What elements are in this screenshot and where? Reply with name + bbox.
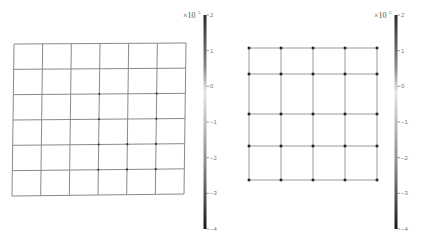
mesh-node-marker xyxy=(248,179,251,182)
mesh-node xyxy=(155,118,157,120)
colorbar-tick-label: 1 xyxy=(401,48,405,54)
mesh-node-marker xyxy=(280,73,283,76)
right-mesh-grid xyxy=(248,47,379,182)
colorbar-tick-label: −2 xyxy=(210,155,218,161)
mesh-node-marker xyxy=(248,47,251,50)
colorbar-tick-label: 0 xyxy=(401,83,405,89)
mesh-node xyxy=(98,118,100,120)
colorbar-multiplier-exponent: 5 xyxy=(198,10,201,15)
mesh-node-marker xyxy=(312,73,315,76)
mesh-node-marker xyxy=(376,145,379,148)
mesh-node xyxy=(155,168,157,170)
mesh-node xyxy=(126,168,128,170)
left-colorbar: 210−1−2−3−4×105 xyxy=(183,10,218,232)
mesh-node-marker xyxy=(376,179,379,182)
mesh-node-marker xyxy=(248,73,251,76)
figure-canvas: 210−1−2−3−4×105 210−1−2−3−4×105 xyxy=(0,0,422,243)
colorbar-tick-label: −4 xyxy=(401,226,409,232)
mesh-node xyxy=(97,169,99,171)
colorbar-multiplier-exponent: 5 xyxy=(389,10,392,15)
colorbar-tick-label: 2 xyxy=(210,12,214,18)
mesh-node-marker xyxy=(376,73,379,76)
colorbar-gradient xyxy=(395,15,398,229)
mesh-line-horizontal xyxy=(14,68,186,69)
mesh-node-marker xyxy=(344,179,347,182)
left-mesh-grid xyxy=(12,43,186,196)
mesh-node-marker xyxy=(376,47,379,50)
colorbar-tick-label: −4 xyxy=(210,226,218,232)
mesh-node xyxy=(156,92,158,94)
mesh-node-marker xyxy=(280,47,283,50)
mesh-node-marker xyxy=(280,179,283,182)
colorbar-tick-label: −1 xyxy=(210,119,218,125)
mesh-node-marker xyxy=(344,73,347,76)
colorbar-tick-label: −3 xyxy=(401,190,409,196)
mesh-node xyxy=(98,93,100,95)
mesh-node-marker xyxy=(312,179,315,182)
mesh-node-marker xyxy=(344,113,347,116)
colorbar-tick-label: 1 xyxy=(210,48,214,54)
mesh-node-marker xyxy=(344,47,347,50)
mesh-line-horizontal xyxy=(14,43,186,44)
colorbar-multiplier: ×10 xyxy=(183,11,196,20)
colorbar-tick-label: −2 xyxy=(401,155,409,161)
mesh-node-marker xyxy=(280,113,283,116)
colorbar-gradient xyxy=(204,15,207,229)
colorbar-tick-label: −1 xyxy=(401,119,409,125)
mesh-node xyxy=(98,143,100,145)
mesh-node-marker xyxy=(248,113,251,116)
mesh-node xyxy=(155,143,157,145)
colorbar-tick-label: −3 xyxy=(210,190,218,196)
colorbar-multiplier: ×10 xyxy=(374,11,387,20)
colorbar-tick-label: 2 xyxy=(401,12,405,18)
mesh-node-marker xyxy=(312,113,315,116)
mesh-node-marker xyxy=(248,145,251,148)
right-colorbar: 210−1−2−3−4×105 xyxy=(374,10,409,232)
mesh-node xyxy=(126,143,128,145)
mesh-node-marker xyxy=(312,145,315,148)
mesh-node-marker xyxy=(280,145,283,148)
mesh-node-marker xyxy=(312,47,315,50)
mesh-node-marker xyxy=(376,113,379,116)
colorbar-tick-label: 0 xyxy=(210,83,214,89)
mesh-node-marker xyxy=(344,145,347,148)
